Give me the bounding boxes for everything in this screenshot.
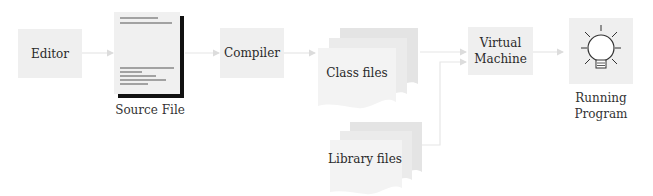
lightbulb-icon: [569, 18, 633, 84]
running-label-line1: Running: [561, 90, 641, 106]
vm-label-line2: Machine: [474, 51, 527, 67]
running-program-node: [569, 18, 633, 84]
editor-label: Editor: [31, 46, 69, 62]
source-file-label: Source File: [110, 102, 190, 118]
compiler-node: Compiler: [220, 28, 284, 78]
vm-label-line1: Virtual: [480, 35, 522, 51]
compiler-label: Compiler: [224, 45, 280, 61]
running-program-label: Running Program: [561, 90, 641, 122]
running-label-line2: Program: [561, 106, 641, 122]
editor-node: Editor: [18, 29, 82, 78]
source-file-document-icon: [114, 12, 186, 100]
library-files-label: Library files: [328, 152, 402, 166]
class-files-label: Class files: [318, 66, 396, 80]
arrow-libraryfiles-to-vm: [422, 62, 466, 145]
virtual-machine-node: Virtual Machine: [468, 27, 533, 75]
